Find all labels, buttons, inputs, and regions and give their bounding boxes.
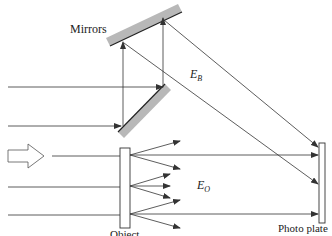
- object: [120, 148, 130, 228]
- illumination-arrow-icon: [8, 144, 44, 168]
- beam-lines: [8, 18, 318, 228]
- mirrors-label: Mirrors: [70, 22, 107, 37]
- photo-plate-label: Photo plate: [278, 222, 328, 234]
- object-label: Object: [110, 228, 139, 236]
- photo-plate: [319, 143, 325, 223]
- object-beam-label: EO: [197, 178, 210, 194]
- holography-diagram: Mirrors EB EO Object Photo plate: [0, 0, 332, 236]
- reference-beam-label: EB: [190, 67, 202, 83]
- diagram-canvas: [0, 0, 332, 236]
- lower-mirror: [118, 84, 171, 138]
